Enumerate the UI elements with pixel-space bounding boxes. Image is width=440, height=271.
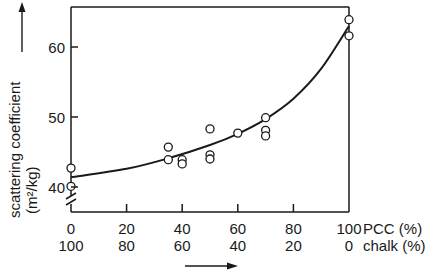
y-axis-arrow-icon [19, 2, 26, 52]
y-tick-label: 60 [48, 39, 65, 56]
data-point [206, 155, 214, 163]
x-tick-label-chalk: 100 [58, 237, 83, 254]
x-tick-label-pcc: 60 [229, 220, 246, 237]
data-point [262, 132, 270, 140]
data-point [345, 16, 353, 24]
data-point [234, 129, 242, 137]
data-point [345, 32, 353, 40]
data-point [178, 160, 186, 168]
data-points [67, 16, 353, 191]
data-point [206, 125, 214, 133]
x-tick-label-pcc: 20 [118, 220, 135, 237]
x-tick-label-chalk: 80 [118, 237, 135, 254]
x-tick-label-chalk: 40 [229, 237, 246, 254]
x-tick-label-pcc: 0 [67, 220, 75, 237]
x-tick-label-chalk: 20 [285, 237, 302, 254]
y-axis-label: scattering coefficient [6, 81, 23, 218]
y-tick-label: 50 [48, 109, 65, 126]
data-point [262, 114, 270, 122]
x-axis-arrow-icon [185, 263, 238, 270]
x-axis-label-chalk: chalk (%) [363, 237, 426, 254]
data-point [164, 156, 172, 164]
x-axis-label-pcc: PCC (%) [363, 220, 422, 237]
scattering-coefficient-chart: 010020804060604080201000 405060 scatteri… [0, 0, 440, 271]
x-tick-label-pcc: 80 [285, 220, 302, 237]
y-tick-label: 40 [48, 179, 65, 196]
data-point [164, 143, 172, 151]
x-tick-label-pcc: 40 [174, 220, 191, 237]
x-tick-label-chalk: 0 [345, 237, 353, 254]
x-tick-label-pcc: 100 [336, 220, 361, 237]
x-tick-label-chalk: 60 [174, 237, 191, 254]
plot-frame [66, 7, 349, 212]
data-point [67, 164, 75, 172]
y-axis-units: (m²/kg) [23, 167, 40, 215]
